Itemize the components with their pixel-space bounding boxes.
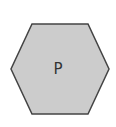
diagram-canvas: P bbox=[0, 0, 116, 127]
hexagon-label: P bbox=[53, 60, 62, 78]
